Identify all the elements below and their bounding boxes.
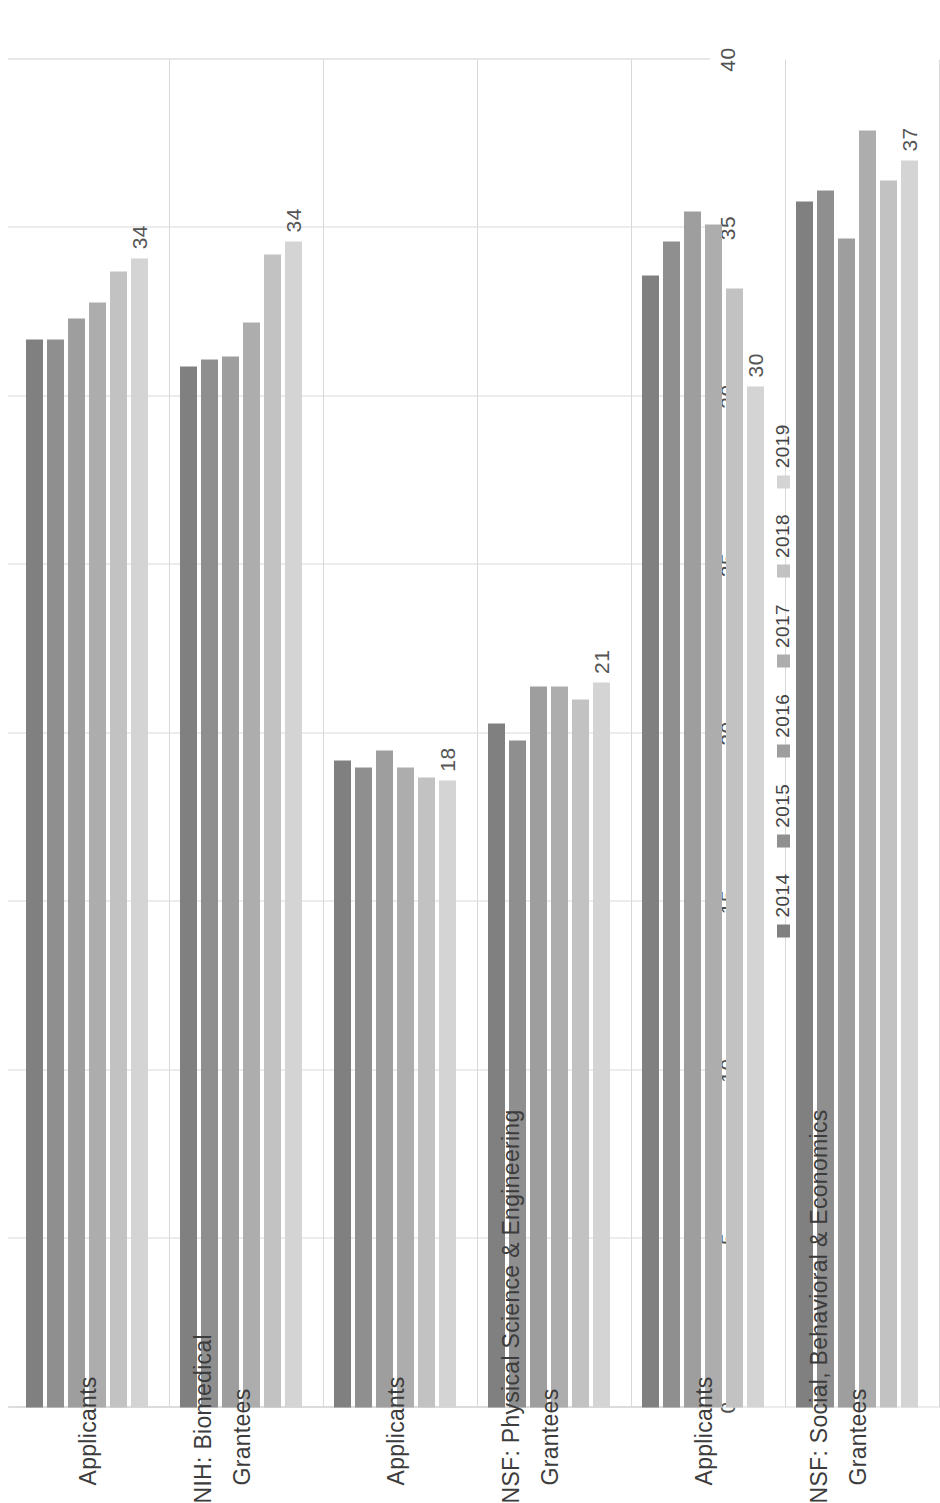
bar-value-label: 18 — [436, 747, 460, 771]
bar — [89, 302, 106, 1407]
legend-swatch-icon — [777, 834, 790, 847]
legend-label: 2016 — [772, 693, 794, 737]
bar — [285, 241, 302, 1407]
bar — [726, 288, 743, 1407]
legend-swatch-icon — [777, 924, 790, 937]
legend-swatch-icon — [777, 654, 790, 667]
bar — [705, 224, 722, 1407]
category-label: Applicants — [691, 1419, 718, 1485]
legend-swatch-icon — [777, 565, 790, 578]
bar — [593, 682, 610, 1407]
bar — [663, 241, 680, 1407]
bar — [901, 160, 918, 1407]
bar — [180, 366, 197, 1407]
legend-swatch-icon — [777, 475, 790, 488]
bar — [47, 339, 64, 1407]
bar — [838, 238, 855, 1407]
bar-value-label: 30 — [744, 353, 768, 377]
legend-item: 2015 — [772, 783, 794, 847]
legend-label: 2014 — [772, 873, 794, 917]
group-label: NIH: Biomedical — [190, 1417, 217, 1503]
bar — [397, 767, 414, 1407]
bar — [572, 699, 589, 1407]
legend-swatch-icon — [777, 744, 790, 757]
bar — [201, 359, 218, 1407]
tick-label: 40 — [716, 47, 740, 71]
bar-value-label: 37 — [898, 127, 922, 151]
category-label: Grantees — [229, 1419, 256, 1485]
bar — [747, 386, 764, 1407]
category-separator — [323, 59, 324, 1407]
bar — [355, 767, 372, 1407]
bar — [418, 777, 435, 1407]
category-separator — [477, 59, 478, 1407]
bar — [439, 780, 456, 1407]
bar — [551, 686, 568, 1407]
bar — [859, 130, 876, 1407]
legend-item: 2018 — [772, 514, 794, 578]
bar — [334, 760, 351, 1407]
bar — [530, 686, 547, 1407]
category-label: Grantees — [537, 1419, 564, 1485]
bar — [264, 254, 281, 1407]
bar — [26, 339, 43, 1407]
category-separator — [631, 59, 632, 1407]
bar — [684, 211, 701, 1407]
legend-label: 2018 — [772, 514, 794, 558]
category-label: Applicants — [383, 1419, 410, 1485]
legend-item: 2019 — [772, 424, 794, 488]
bar — [131, 258, 148, 1407]
category-label: Grantees — [845, 1419, 872, 1485]
bar — [880, 180, 897, 1407]
category-separator — [169, 59, 170, 1407]
bar-value-label: 21 — [590, 649, 614, 673]
category-label: Applicants — [75, 1419, 102, 1485]
legend-item: 2016 — [772, 693, 794, 757]
bar-value-label: 34 — [282, 208, 306, 232]
legend-label: 2017 — [772, 604, 794, 648]
legend-item: 2014 — [772, 873, 794, 937]
legend-label: 2019 — [772, 424, 794, 468]
bar-value-label: 34 — [128, 224, 152, 248]
group-label: NSF: Social, Behavioral & Economics — [806, 1417, 833, 1503]
chart-legend: 201420152016201720182019 — [772, 424, 794, 937]
gridline — [8, 227, 710, 228]
gridline — [8, 58, 710, 59]
bar — [376, 750, 393, 1407]
group-label: NSF: Physical Science & Engineering — [498, 1417, 525, 1503]
legend-item: 2017 — [772, 604, 794, 668]
bar — [222, 356, 239, 1407]
bar — [642, 275, 659, 1407]
legend-label: 2015 — [772, 783, 794, 827]
bar — [243, 322, 260, 1407]
bar — [68, 319, 85, 1408]
bar — [110, 271, 127, 1407]
